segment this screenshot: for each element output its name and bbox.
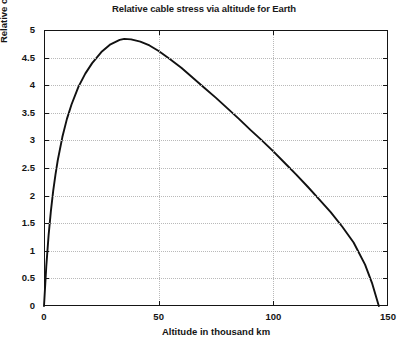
x-tick xyxy=(273,301,274,306)
x-tick-label: 100 xyxy=(253,311,293,322)
y-tick-label: 1.5 xyxy=(0,217,35,228)
y-tick xyxy=(383,58,388,59)
x-tick-label: 150 xyxy=(368,311,408,322)
y-tick xyxy=(44,58,49,59)
y-tick-label: 2 xyxy=(0,190,35,201)
y-tick xyxy=(44,168,49,169)
gridline-horizontal xyxy=(44,196,388,197)
y-tick xyxy=(383,278,388,279)
gridline-vertical xyxy=(273,30,274,306)
gridline-horizontal xyxy=(44,223,388,224)
y-tick xyxy=(44,113,49,114)
y-tick-label: 0.5 xyxy=(0,272,35,283)
y-tick-label: 4 xyxy=(0,79,35,90)
gridline-horizontal xyxy=(44,58,388,59)
chart-title: Relative cable stress via altitude for E… xyxy=(0,3,408,14)
x-tick xyxy=(273,30,274,35)
x-tick xyxy=(159,30,160,35)
y-tick xyxy=(44,85,49,86)
gridline-horizontal xyxy=(44,278,388,279)
plot-area: 00.511.522.533.544.55050100150 xyxy=(44,30,388,306)
y-tick xyxy=(383,223,388,224)
gridline-horizontal xyxy=(44,113,388,114)
x-tick-label: 0 xyxy=(24,311,64,322)
y-tick xyxy=(44,278,49,279)
y-tick-label: 3 xyxy=(0,134,35,145)
x-axis-title: Altitude in thousand km xyxy=(44,326,388,337)
gridline-horizontal xyxy=(44,251,388,252)
y-tick xyxy=(44,196,49,197)
gridline-horizontal xyxy=(44,168,388,169)
y-tick xyxy=(383,196,388,197)
y-tick xyxy=(44,223,49,224)
y-tick-label: 1 xyxy=(0,245,35,256)
y-tick-label: 2.5 xyxy=(0,162,35,173)
x-tick-label: 50 xyxy=(139,311,179,322)
y-tick-label: 3.5 xyxy=(0,107,35,118)
y-tick xyxy=(44,251,49,252)
y-axis-title: Relative cable stress, K xyxy=(0,0,9,80)
y-tick xyxy=(383,113,388,114)
gridline-horizontal xyxy=(44,140,388,141)
y-tick xyxy=(383,85,388,86)
y-tick xyxy=(383,168,388,169)
y-tick xyxy=(44,140,49,141)
gridline-horizontal xyxy=(44,85,388,86)
y-tick-label: 0 xyxy=(0,300,35,311)
y-tick xyxy=(383,140,388,141)
y-tick xyxy=(383,251,388,252)
chart-figure: Relative cable stress via altitude for E… xyxy=(0,0,408,350)
gridline-vertical xyxy=(159,30,160,306)
x-tick xyxy=(159,301,160,306)
